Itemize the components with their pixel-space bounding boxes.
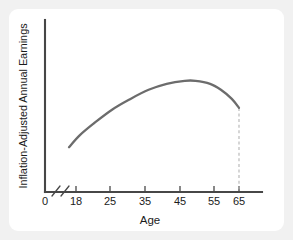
y-axis-title: Inflation-Adjusted Annual Earnings [17,23,29,189]
x-tick-label-0: 0 [42,195,48,207]
x-tick-label-18: 18 [70,195,82,207]
x-tick-label-45: 45 [174,195,186,207]
x-tick-label-65: 65 [233,195,245,207]
figure-root: Inflation-Adjusted Annual Earnings 0 18 … [0,0,293,240]
age-earnings-chart: Inflation-Adjusted Annual Earnings 0 18 … [0,0,293,240]
x-tick-label-35: 35 [139,195,151,207]
x-tick-label-55: 55 [208,195,220,207]
x-axis-title: Age [140,214,160,226]
earnings-curve-line [69,80,239,147]
x-tick-label-25: 25 [104,195,116,207]
